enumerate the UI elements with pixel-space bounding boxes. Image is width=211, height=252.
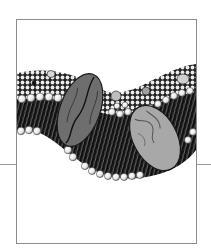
membrane-illustration [0, 0, 211, 252]
illustration-canvas [0, 0, 211, 252]
